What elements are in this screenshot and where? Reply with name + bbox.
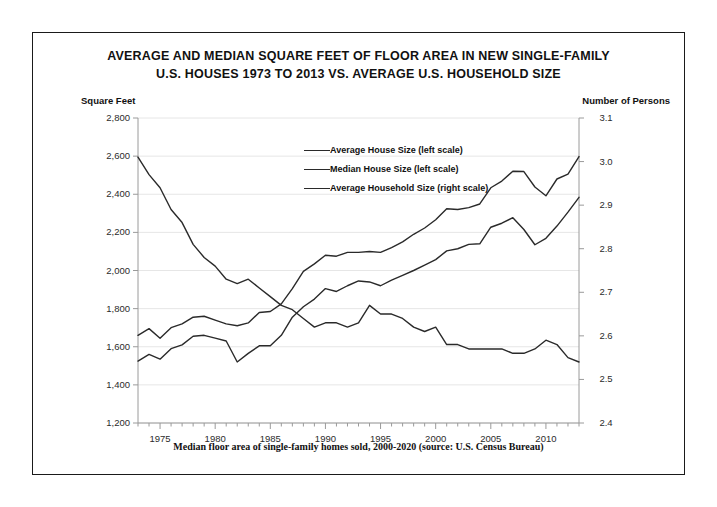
y-axis-label-left: 1,200 xyxy=(80,417,130,428)
chart-footer-caption: Median floor area of single-family homes… xyxy=(33,441,684,452)
chart-frame: AVERAGE AND MEDIAN SQUARE FEET OF FLOOR … xyxy=(32,32,685,475)
legend-line-swatch-3 xyxy=(304,188,330,189)
y-axis-label-left: 1,600 xyxy=(80,341,130,352)
legend-label-3: Average Household Size (right scale) xyxy=(330,183,488,193)
y-axis-label-left: 2,200 xyxy=(80,226,130,237)
plot-area: 1,2001,4001,6001,8002,0002,2002,4002,600… xyxy=(33,33,686,476)
y-axis-label-left: 2,800 xyxy=(80,112,130,123)
y-axis-label-left: 2,600 xyxy=(80,150,130,161)
y-axis-label-right: 3.1 xyxy=(591,112,621,123)
legend-label-2: Median House Size (left scale) xyxy=(330,164,459,174)
y-axis-label-right: 3.0 xyxy=(591,156,621,167)
y-axis-label-left: 1,400 xyxy=(80,379,130,390)
y-axis-label-right: 2.4 xyxy=(591,417,621,428)
y-axis-label-left: 1,800 xyxy=(80,303,130,314)
chart-canvas xyxy=(33,33,686,476)
y-axis-label-right: 2.7 xyxy=(591,286,621,297)
legend-line-swatch-1 xyxy=(304,150,330,151)
y-axis-label-right: 2.9 xyxy=(591,199,621,210)
y-axis-label-left: 2,000 xyxy=(80,265,130,276)
y-axis-label-right: 2.8 xyxy=(591,243,621,254)
legend-label-1: Average House Size (left scale) xyxy=(330,145,463,155)
y-axis-label-right: 2.5 xyxy=(591,373,621,384)
y-axis-label-left: 2,400 xyxy=(80,188,130,199)
legend-line-swatch-2 xyxy=(304,169,330,170)
y-axis-label-right: 2.6 xyxy=(591,330,621,341)
series-line-2 xyxy=(138,197,579,362)
